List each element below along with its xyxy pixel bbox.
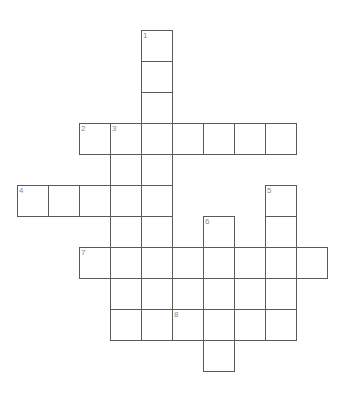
crossword-cell[interactable] <box>203 340 235 372</box>
crossword-cell[interactable] <box>141 309 173 341</box>
crossword-cell[interactable] <box>110 278 142 310</box>
crossword-cell[interactable] <box>141 247 173 279</box>
clue-number-7: 7 <box>81 248 85 257</box>
crossword-cell[interactable] <box>110 185 142 217</box>
clue-number-4: 4 <box>19 186 23 195</box>
crossword-cell[interactable] <box>141 154 173 186</box>
crossword-cell[interactable]: 6 <box>203 216 235 248</box>
crossword-cell[interactable] <box>110 154 142 186</box>
crossword-cell[interactable] <box>234 247 266 279</box>
crossword-cell[interactable] <box>265 216 297 248</box>
crossword-cell[interactable] <box>141 123 173 155</box>
crossword-cell[interactable] <box>265 123 297 155</box>
crossword-cell[interactable] <box>141 61 173 93</box>
crossword-cell[interactable] <box>296 247 328 279</box>
crossword-cell[interactable] <box>48 185 80 217</box>
crossword-cell[interactable]: 2 <box>79 123 111 155</box>
crossword-cell[interactable]: 7 <box>79 247 111 279</box>
crossword-cell[interactable]: 1 <box>141 30 173 62</box>
crossword-cell[interactable]: 5 <box>265 185 297 217</box>
crossword-cell[interactable]: 4 <box>17 185 49 217</box>
crossword-cell[interactable]: 8 <box>172 309 204 341</box>
crossword-cell[interactable] <box>234 309 266 341</box>
crossword-cell[interactable] <box>265 309 297 341</box>
clue-number-6: 6 <box>205 217 209 226</box>
clue-number-3: 3 <box>112 124 116 133</box>
crossword-cell[interactable] <box>203 247 235 279</box>
clue-number-1: 1 <box>143 31 147 40</box>
crossword-cell[interactable] <box>172 123 204 155</box>
crossword-cell[interactable]: 3 <box>110 123 142 155</box>
crossword-cell[interactable] <box>265 278 297 310</box>
crossword-cell[interactable] <box>203 123 235 155</box>
crossword-cell[interactable] <box>141 278 173 310</box>
crossword-cell[interactable] <box>203 309 235 341</box>
crossword-cell[interactable] <box>141 185 173 217</box>
crossword-cell[interactable] <box>79 185 111 217</box>
crossword-cell[interactable] <box>110 216 142 248</box>
crossword-cell[interactable] <box>110 309 142 341</box>
clue-number-5: 5 <box>267 186 271 195</box>
clue-number-8: 8 <box>174 310 178 319</box>
crossword-puzzle-grid: 12345678 <box>0 0 341 412</box>
crossword-cell[interactable] <box>110 247 142 279</box>
crossword-cell[interactable] <box>141 216 173 248</box>
crossword-cell[interactable] <box>234 123 266 155</box>
crossword-cell[interactable] <box>203 278 235 310</box>
crossword-cell[interactable] <box>141 92 173 124</box>
clue-number-2: 2 <box>81 124 85 133</box>
crossword-cell[interactable] <box>172 247 204 279</box>
crossword-cell[interactable] <box>265 247 297 279</box>
